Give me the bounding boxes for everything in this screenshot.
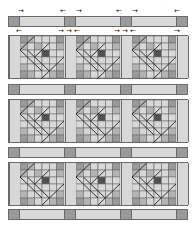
pressing-arrow-icon: → bbox=[76, 8, 82, 15]
quilt-block bbox=[76, 163, 120, 205]
pressing-arrow-icon: ← bbox=[130, 28, 136, 35]
pressing-arrow-icon: ← bbox=[174, 8, 180, 15]
cornerstone bbox=[64, 84, 76, 95]
cornerstone bbox=[176, 16, 188, 27]
pressing-arrow-icon: ← bbox=[74, 28, 80, 35]
pressing-arrow-icon: → bbox=[18, 8, 24, 15]
pressing-arrow-icon: → bbox=[122, 28, 128, 35]
cornerstone bbox=[120, 209, 132, 220]
sashing-vertical bbox=[177, 100, 189, 142]
quilt-block bbox=[20, 163, 64, 205]
cornerstone bbox=[120, 84, 132, 95]
quilt-block bbox=[20, 36, 64, 78]
pressing-arrow-icon: → bbox=[114, 28, 120, 35]
pressing-arrow-icon: → bbox=[132, 8, 138, 15]
pressing-arrow-icon: → bbox=[66, 28, 72, 35]
cornerstone bbox=[64, 147, 76, 158]
cornerstone bbox=[120, 147, 132, 158]
pressing-arrow-icon: → bbox=[174, 28, 180, 35]
pressing-arrow-icon: ← bbox=[116, 8, 122, 15]
block-row bbox=[8, 35, 188, 79]
pressing-arrow-icon: ← bbox=[16, 28, 22, 35]
quilt-block bbox=[132, 100, 176, 142]
pressing-arrow-icon: ← bbox=[60, 8, 66, 15]
sashing-vertical bbox=[177, 163, 189, 205]
cornerstone bbox=[176, 147, 188, 158]
quilt-block bbox=[76, 100, 120, 142]
quilt-block bbox=[132, 163, 176, 205]
cornerstone bbox=[120, 16, 132, 27]
cornerstone bbox=[176, 209, 188, 220]
quilt-block bbox=[20, 100, 64, 142]
cornerstone bbox=[64, 16, 76, 27]
cornerstone bbox=[8, 16, 20, 27]
quilt-block bbox=[76, 36, 120, 78]
cornerstone bbox=[8, 84, 20, 95]
cornerstone bbox=[176, 84, 188, 95]
sashing-vertical bbox=[177, 36, 189, 78]
block-row bbox=[8, 99, 188, 143]
cornerstone bbox=[8, 147, 20, 158]
pressing-arrow-icon: → bbox=[58, 28, 64, 35]
sashing-row bbox=[8, 84, 188, 95]
sashing-row bbox=[8, 16, 188, 27]
sashing-row bbox=[8, 209, 188, 220]
cornerstone bbox=[8, 209, 20, 220]
cornerstone bbox=[64, 209, 76, 220]
block-row bbox=[8, 162, 188, 206]
quilt-block bbox=[132, 36, 176, 78]
sashing-row bbox=[8, 147, 188, 158]
